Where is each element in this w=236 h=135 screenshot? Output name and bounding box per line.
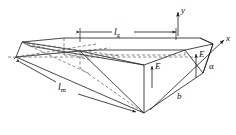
top-front-edge xyxy=(80,50,185,51)
diagram-canvas xyxy=(0,0,236,135)
apex-to-bottom-front-long-edge xyxy=(16,57,144,113)
vector-label-e-upper: E xyxy=(199,50,205,59)
top-back-edge xyxy=(22,38,200,42)
x-axis-line xyxy=(150,40,224,110)
dimension-label-lg: lg xyxy=(114,27,120,38)
mid-to-front-top-edge xyxy=(80,51,144,65)
axis-label-x: x xyxy=(226,34,230,43)
vector-label-e-lower: E xyxy=(155,62,161,71)
front-top-to-right-edge xyxy=(144,50,185,65)
axis-label-y: y xyxy=(181,6,185,15)
figure-container: lg lm E E b α x y xyxy=(0,0,236,135)
angle-label-alpha: α xyxy=(209,62,214,71)
mid-to-bottom-front-edge xyxy=(80,51,144,113)
dimension-label-b: b xyxy=(177,92,182,101)
dimension-label-lm: lm xyxy=(58,82,66,93)
dashed-hidden-front-diagonal xyxy=(80,68,144,113)
